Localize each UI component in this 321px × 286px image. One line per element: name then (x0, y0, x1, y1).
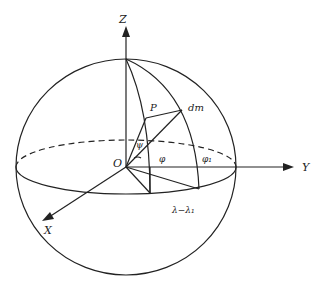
dm-label: dm (188, 102, 204, 113)
x-arrowhead (42, 212, 54, 221)
z-label: Z (118, 13, 127, 26)
x-label: X (43, 224, 53, 237)
y-label: Y (302, 161, 311, 174)
phi1-label: φ₁ (202, 154, 212, 164)
z-arrowhead (122, 26, 130, 37)
phi-label: φ (159, 154, 166, 164)
p-label: P (149, 102, 157, 113)
x-axis (46, 167, 126, 219)
psi-arc (134, 157, 141, 158)
y-arrowhead (283, 163, 294, 171)
origin-label: O (113, 157, 122, 170)
equator-front (16, 167, 236, 194)
longitude-label: λ−λ₁ (171, 205, 195, 215)
sphere-diagram: Z Y X O P dm ψ φ φ₁ λ−λ₁ (0, 0, 321, 286)
psi-label: ψ (136, 140, 144, 150)
